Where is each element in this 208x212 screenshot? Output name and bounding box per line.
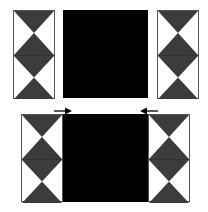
top-center-block <box>63 10 148 98</box>
bottom-center-block <box>63 114 148 202</box>
hourglass-cell <box>149 159 189 203</box>
bottom-left-column <box>21 114 63 202</box>
hourglass-cell <box>158 11 198 55</box>
hourglass-cell <box>22 115 62 159</box>
hourglass-cell <box>149 115 189 159</box>
hourglass-cell <box>22 159 62 203</box>
hourglass-icon <box>149 115 189 159</box>
hourglass-icon <box>22 160 62 203</box>
arrow-left-icon <box>140 101 158 111</box>
arrow-right-icon <box>54 101 72 111</box>
hourglass-icon <box>158 56 198 99</box>
hourglass-icon <box>14 11 54 55</box>
hourglass-icon <box>22 115 62 159</box>
bottom-right-column <box>148 114 190 202</box>
hourglass-icon <box>14 56 54 99</box>
hourglass-icon <box>158 11 198 55</box>
top-right-column <box>157 10 199 99</box>
hourglass-cell <box>158 55 198 99</box>
hourglass-icon <box>149 160 189 203</box>
top-left-column <box>13 10 55 99</box>
hourglass-cell <box>14 11 54 55</box>
hourglass-cell <box>14 55 54 99</box>
